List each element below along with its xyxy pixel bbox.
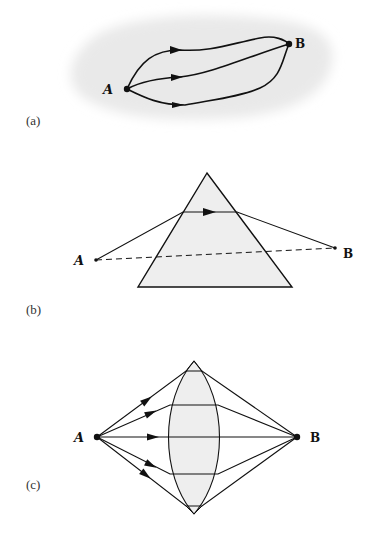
point-b-label: B [343,247,353,261]
background-smudge [71,15,333,119]
figure-canvas: A B (a) A B (b) [0,0,368,543]
point-a-dot [94,434,100,440]
arrow-icon [144,459,158,471]
panel-label-a: (a) [26,113,40,128]
point-a-label: A [72,253,84,268]
point-b-dot [333,246,337,250]
arrow-icon [147,434,159,441]
point-b-dot [286,41,292,47]
point-a-label: A [101,82,113,97]
arrow-icon [144,407,158,418]
point-b-label: B [295,37,305,51]
panel-label-b: (b) [26,302,41,317]
arrow-icon [139,469,153,482]
prism [138,173,292,287]
point-a-dot [94,258,98,262]
point-a-label: A [72,430,84,445]
panel-b: A B (b) [26,173,353,317]
panel-a: A B (a) [26,15,332,128]
panel-c: A B (c) [26,361,320,514]
point-a-dot [124,86,130,92]
point-b-dot [294,434,300,440]
arrow-icon [140,394,154,407]
point-b-label: B [310,431,320,445]
panel-label-c: (c) [26,477,40,492]
